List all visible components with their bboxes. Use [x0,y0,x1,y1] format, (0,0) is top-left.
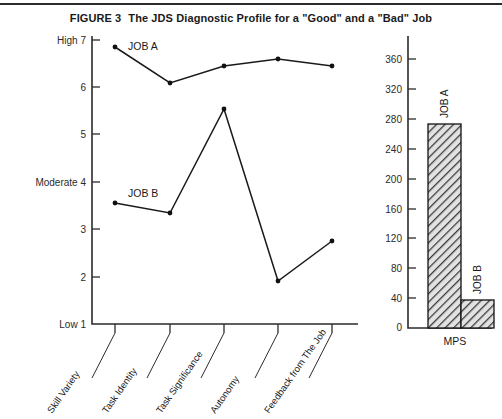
leader-1 [92,333,115,378]
ytick-label-1: Low 1 [59,319,86,330]
job-a-point-5 [330,64,335,69]
category-label-task-significance: Task Significance [154,349,205,415]
job-b-point-1 [113,201,118,206]
mps-ytick-label-360: 360 [385,54,402,65]
bar-label-job-b: JOB B [472,265,483,294]
ytick-label-6: 6 [80,82,86,93]
mps-ytick-label-160: 160 [385,204,402,215]
figure-page: FIGURE 3The JDS Diagnostic Profile for a… [0,0,502,419]
jds-profile-chart: High 7 6 5 Moderate 4 3 2 Low 1 JOB A JO… [0,0,502,419]
bar-job-b [461,300,494,328]
mps-ytick-label-80: 80 [391,263,403,274]
category-label-task-identity: Task Identity [100,365,139,415]
ytick-label-5: 5 [80,129,86,140]
bar-job-a [428,124,461,328]
cat-5-line-1: Feedback from The Job [262,327,328,415]
cat-1-line-1: Skill Variety [45,369,82,416]
leader-2 [147,333,170,378]
series-job-a: JOB A [113,40,335,85]
category-label-autonomy: Autonomy [208,374,242,416]
leader-4 [255,333,278,378]
category-label-skill-variety: Skill Variety [45,369,82,416]
job-a-point-3 [222,64,227,69]
leader-3 [201,333,224,378]
job-b-point-3 [222,107,227,112]
cat-4-line-1: Autonomy [208,374,242,416]
mps-ytick-label-200: 200 [385,174,402,185]
series-job-b: JOB B [113,107,335,284]
cat-2-line-1: Task Identity [100,365,139,415]
profile-axis-lines [92,36,358,324]
job-a-point-1 [113,45,118,50]
ytick-label-7: High 7 [57,35,86,46]
ytick-label-2: 2 [80,272,86,283]
job-a-point-2 [168,81,173,86]
category-labels: Skill Variety Task Identity Task Signifi… [45,327,332,415]
mps-ytick-label-280: 280 [385,114,402,125]
ytick-label-3: 3 [80,224,86,235]
category-label-feedback: Feedback from The Job [262,327,328,415]
mps-ytick-label-120: 120 [385,233,402,244]
mps-axis-title: MPS [444,335,467,347]
ytick-label-4: Moderate 4 [35,177,86,188]
job-b-point-4 [276,279,281,284]
job-b-series-label: JOB B [128,187,158,199]
profile-axes [92,36,358,333]
mps-ytick-label-0: 0 [396,322,402,333]
job-b-point-2 [168,211,173,216]
job-b-point-5 [330,239,335,244]
mps-ytick-label-40: 40 [391,293,403,304]
mps-ytick-label-320: 320 [385,84,402,95]
bar-label-job-a: JOB A [439,89,450,118]
mps-bars: JOB A JOB B [428,89,494,328]
cat-3-line-1: Task Significance [154,349,205,415]
job-a-point-4 [276,57,281,62]
mps-ytick-label-240: 240 [385,144,402,155]
job-a-series-label: JOB A [128,40,158,52]
